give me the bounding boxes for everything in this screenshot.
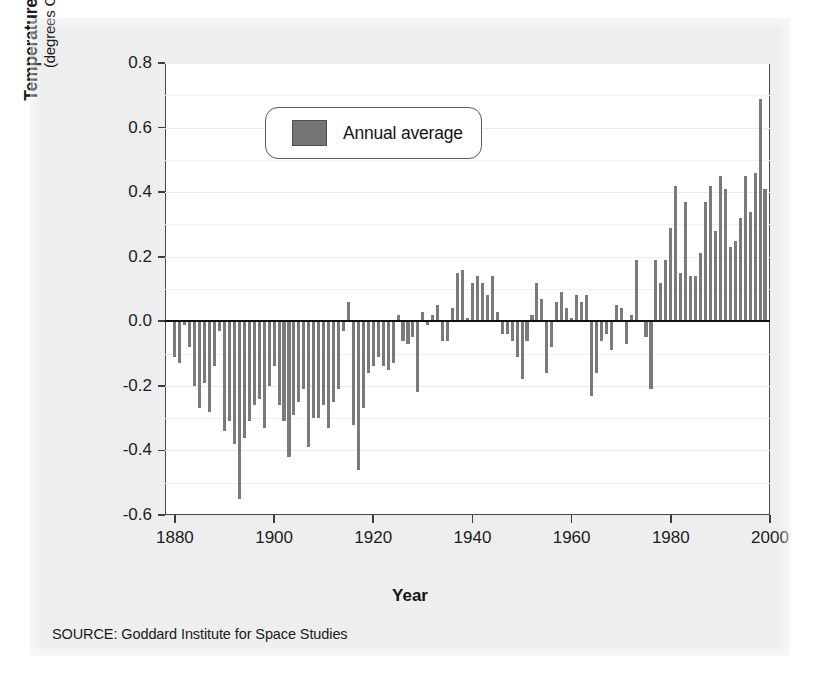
bar: [709, 186, 712, 322]
bar: [312, 321, 315, 418]
bar: [694, 276, 697, 321]
bar: [248, 321, 251, 421]
y-axis-tick: [158, 514, 165, 516]
bar: [253, 321, 256, 405]
bar: [714, 231, 717, 321]
bar: [307, 321, 310, 447]
bar: [332, 321, 335, 402]
bar: [456, 273, 459, 321]
bar: [228, 321, 231, 421]
bar: [590, 321, 593, 395]
bar: [372, 321, 375, 366]
source-note: SOURCE: Goddard Institute for Space Stud…: [52, 626, 348, 642]
bar: [615, 305, 618, 321]
bar: [729, 247, 732, 321]
bar: [719, 176, 722, 321]
bar: [401, 321, 404, 340]
bar: [759, 99, 762, 322]
legend-label-annual-average: Annual average: [343, 123, 463, 144]
bar: [238, 321, 241, 499]
legend[interactable]: Annual average: [265, 107, 482, 159]
bar: [198, 321, 201, 408]
bar: [664, 260, 667, 321]
gridline: [165, 515, 770, 516]
x-axis-tick: [174, 515, 176, 523]
y-axis-title-sub: (degrees Celsius): [42, 0, 59, 176]
bar: [763, 189, 766, 321]
bar: [669, 228, 672, 322]
legend-swatch-annual-average: [292, 120, 327, 146]
bar: [585, 295, 588, 321]
bar: [635, 260, 638, 321]
bar: [754, 173, 757, 322]
x-axis-tick-label: 2000: [751, 528, 789, 548]
bar: [525, 321, 528, 340]
bar: [416, 321, 419, 392]
bar: [476, 276, 479, 321]
bar: [511, 321, 514, 340]
bar: [521, 321, 524, 379]
bar: [625, 321, 628, 344]
bar: [292, 321, 295, 415]
bar: [287, 321, 290, 457]
x-axis-title: Year: [30, 586, 790, 606]
bar: [342, 321, 345, 331]
bar: [491, 276, 494, 321]
bar: [516, 321, 519, 357]
bar: [297, 321, 300, 402]
bar: [555, 302, 558, 321]
x-axis-tick: [670, 515, 672, 523]
bar: [233, 321, 236, 444]
y-axis-tick: [158, 256, 165, 258]
bar: [545, 321, 548, 373]
bar: [689, 276, 692, 321]
bar: [654, 260, 657, 321]
bar: [501, 321, 504, 334]
x-axis-tick-label: 1880: [156, 528, 194, 548]
y-axis-tick-label: 0.0: [128, 311, 152, 331]
bar: [282, 321, 285, 421]
bar: [580, 302, 583, 321]
bar: [411, 321, 414, 337]
y-axis-tick-label: 0.6: [128, 118, 152, 138]
y-axis-tick-label: -0.6: [123, 505, 152, 525]
bar: [263, 321, 266, 428]
x-axis-tick-label: 1940: [454, 528, 492, 548]
bar: [223, 321, 226, 431]
bar: [679, 273, 682, 321]
bar: [441, 321, 444, 340]
bar: [605, 321, 608, 334]
zero-baseline: [165, 320, 770, 322]
y-axis-tick-label: 0.8: [128, 53, 152, 73]
bar: [674, 186, 677, 322]
bar: [446, 321, 449, 340]
bar: [377, 321, 380, 357]
bar: [659, 283, 662, 322]
bar: [392, 321, 395, 363]
bar: [243, 321, 246, 437]
bar: [406, 321, 409, 344]
bar: [560, 292, 563, 321]
bar: [357, 321, 360, 470]
bar: [208, 321, 211, 411]
y-axis-tick-label: 0.2: [128, 247, 152, 267]
y-axis-tick: [158, 385, 165, 387]
bar: [382, 321, 385, 366]
figure-panel: Temperature Variation (degrees Celsius) …: [30, 18, 790, 656]
bar: [704, 202, 707, 321]
bar: [684, 202, 687, 321]
bar: [749, 212, 752, 322]
bar: [595, 321, 598, 373]
bar: [347, 302, 350, 321]
bar: [535, 283, 538, 322]
bar: [258, 321, 261, 398]
bar: [302, 321, 305, 389]
bar: [436, 305, 439, 321]
bar: [178, 321, 181, 363]
bar: [699, 253, 702, 321]
y-axis-tick: [158, 320, 165, 322]
x-axis-tick-label: 1900: [255, 528, 293, 548]
x-axis-tick: [769, 515, 771, 523]
bar: [734, 241, 737, 322]
bar: [213, 321, 216, 366]
